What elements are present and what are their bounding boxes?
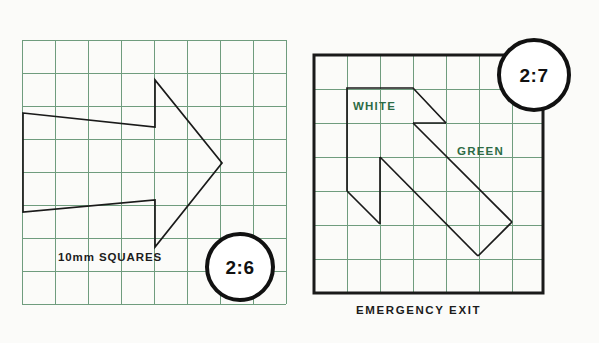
figure-badge-2-7-label: 2:7 — [520, 66, 549, 85]
caption-emergency-exit: EMERGENCY EXIT — [356, 304, 481, 316]
right-pointing-arrow-shape — [23, 80, 222, 247]
label-green: GREEN — [457, 145, 504, 157]
diagonal-arrow-shape — [347, 88, 512, 256]
figure-badge-2-6-label: 2:6 — [226, 258, 255, 277]
label-white: WHITE — [353, 100, 396, 112]
caption-10mm-squares: 10mm SQUARES — [58, 251, 162, 263]
figure-badge-2-6: 2:6 — [205, 232, 275, 302]
figure-badge-2-7: 2:7 — [497, 38, 571, 112]
diagram-page: WHITE GREEN 10mm SQUARES EMERGENCY EXIT … — [0, 0, 599, 343]
